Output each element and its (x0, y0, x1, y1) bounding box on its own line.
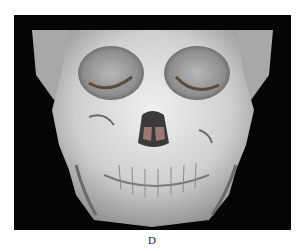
skull-illustration (14, 15, 291, 230)
panel-label: D (0, 234, 304, 246)
left-orbit (78, 46, 144, 100)
skull-ct-image (14, 15, 291, 230)
right-orbit (164, 46, 230, 100)
